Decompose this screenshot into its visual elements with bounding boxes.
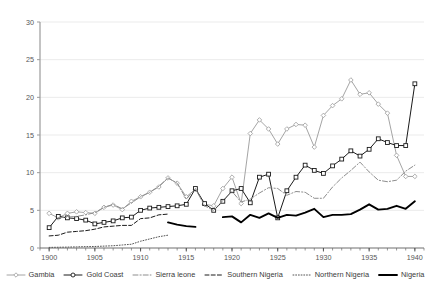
series-line-gambia [49, 80, 415, 218]
series-marker-gambia [65, 211, 70, 216]
series-marker-gold-coast [93, 222, 97, 226]
series-marker-gold-coast [139, 208, 143, 212]
legend-label: Sierra leone [155, 271, 195, 278]
series-marker-gold-coast [413, 82, 417, 86]
series-marker-gold-coast [331, 164, 335, 168]
series-marker-gambia [349, 78, 354, 83]
x-tick-label: 1940 [407, 253, 423, 262]
series-marker-gold-coast [303, 163, 307, 167]
series-marker-gold-coast [395, 144, 399, 148]
series-marker-gold-coast [47, 226, 51, 230]
series-marker-gambia [285, 127, 290, 132]
y-tick-label: 5 [30, 206, 34, 215]
legend-swatch-gambia [6, 270, 26, 280]
y-tick-label: 10 [26, 168, 34, 177]
legend-label: Northern Nigeria [315, 271, 369, 278]
x-tick-label: 1905 [87, 253, 103, 262]
series-marker-gambia [211, 204, 216, 209]
legend-item-gambia[interactable]: Gambia [6, 270, 55, 280]
series-marker-gold-coast [157, 205, 161, 209]
series-marker-gold-coast [84, 218, 88, 222]
series-marker-gold-coast [184, 202, 188, 206]
y-tick-label: 30 [26, 18, 34, 27]
series-marker-gold-coast [75, 217, 79, 221]
y-tick-label: 15 [26, 131, 34, 140]
series-marker-gambia [303, 123, 308, 128]
y-tick-label: 25 [26, 55, 34, 64]
legend-swatch-gold-coast [63, 270, 83, 280]
chart-legend: GambiaGold CoastSierra leoneSouthern Nig… [0, 266, 430, 284]
x-tick-label: 1925 [270, 253, 286, 262]
y-tick-label: 0 [30, 244, 34, 253]
series-marker-gambia [83, 210, 88, 215]
legend-item-southern-nigeria[interactable]: Southern Nigeria [204, 270, 282, 280]
legend-item-northern-nigeria[interactable]: Northern Nigeria [292, 270, 369, 280]
series-marker-gambia [275, 142, 280, 147]
legend-label: Gambia [29, 271, 55, 278]
series-marker-gold-coast [349, 149, 353, 153]
series-marker-gambia [413, 174, 418, 179]
series-marker-gold-coast [358, 154, 362, 158]
legend-label: Nigeria [401, 271, 424, 278]
series-marker-gold-coast [120, 216, 124, 220]
series-marker-gold-coast [102, 220, 106, 224]
series-marker-gold-coast [376, 137, 380, 141]
series-marker-gold-coast [130, 215, 134, 219]
legend-swatch-northern-nigeria [292, 270, 312, 280]
series-marker-gold-coast [175, 204, 179, 208]
legend-label: Southern Nigeria [227, 271, 282, 278]
legend-swatch-sierra-leone [132, 270, 152, 280]
series-marker-gold-coast [367, 147, 371, 151]
series-marker-gold-coast [322, 172, 326, 176]
series-marker-gambia [294, 122, 299, 127]
series-marker-gold-coast [285, 189, 289, 193]
series-marker-gold-coast [312, 169, 316, 173]
x-tick-label: 1915 [178, 253, 194, 262]
series-marker-gambia [312, 145, 317, 150]
series-marker-gold-coast [248, 201, 252, 205]
series-marker-gold-coast [267, 172, 271, 176]
y-tick-label: 20 [26, 93, 34, 102]
legend-label: Gold Coast [86, 271, 123, 278]
series-marker-gambia [394, 153, 399, 158]
series-marker-gold-coast [239, 187, 243, 191]
series-marker-gold-coast [166, 205, 170, 209]
x-tick-label: 1930 [315, 253, 331, 262]
x-tick-label: 1935 [361, 253, 377, 262]
legend-item-nigeria[interactable]: Nigeria [378, 270, 424, 280]
series-marker-gold-coast [386, 141, 390, 145]
series-marker-gambia [403, 174, 408, 179]
series-marker-gold-coast [294, 175, 298, 179]
series-marker-gold-coast [258, 175, 262, 179]
series-line-nigeria [168, 222, 195, 227]
series-marker-gold-coast [148, 206, 152, 210]
plot-area: 0510152025301900190519101915192019251930… [0, 0, 430, 291]
series-marker-gold-coast [404, 144, 408, 148]
series-marker-gambia [358, 92, 363, 97]
legend-item-sierra-leone[interactable]: Sierra leone [132, 270, 195, 280]
x-tick-label: 1910 [133, 253, 149, 262]
line-chart: 0510152025301900190519101915192019251930… [0, 0, 430, 291]
series-marker-gambia [47, 211, 52, 216]
legend-swatch-nigeria [378, 270, 398, 280]
legend-item-gold-coast[interactable]: Gold Coast [63, 270, 123, 280]
series-line-northern-nigeria [49, 235, 168, 247]
series-marker-gold-coast [111, 219, 115, 223]
x-tick-label: 1920 [224, 253, 240, 262]
series-marker-gold-coast [340, 157, 344, 161]
x-tick-label: 1900 [41, 253, 57, 262]
legend-swatch-southern-nigeria [204, 270, 224, 280]
